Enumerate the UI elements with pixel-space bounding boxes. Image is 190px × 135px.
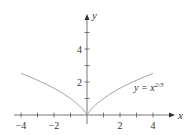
- x-tick-label-2: 2: [118, 120, 123, 131]
- equation-label: y = x2/3: [133, 81, 164, 93]
- x-tick-label-neg4: −4: [16, 120, 27, 131]
- chart: −4 −2 2 4 2 4 x y y = x2/3: [0, 0, 190, 135]
- y-tick-label-4: 4: [77, 44, 82, 55]
- x-tick-label-neg2: −2: [49, 120, 60, 131]
- y-axis-arrow-icon: [85, 14, 90, 20]
- x-axis-label: x: [177, 109, 183, 121]
- y-tick-label-2: 2: [77, 77, 82, 88]
- x-axis-arrow-icon: [169, 113, 175, 118]
- x-tick-label-4: 4: [151, 120, 156, 131]
- y-axis-label: y: [91, 9, 97, 21]
